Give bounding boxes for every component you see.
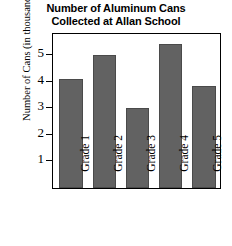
y-tick-mark xyxy=(46,107,53,108)
y-tick-mark xyxy=(46,54,53,55)
y-tick-label: 5 xyxy=(28,45,44,61)
x-axis-label-grade-1: Grade 1 xyxy=(78,135,92,191)
y-tick-mark xyxy=(46,134,53,135)
x-axis-label-grade-3: Grade 3 xyxy=(144,135,158,191)
x-axis-label-grade-5: Grade 5 xyxy=(210,135,224,191)
y-tick-label: 2 xyxy=(28,125,44,141)
y-tick-label: 3 xyxy=(28,98,44,114)
y-tick-mark xyxy=(46,160,53,161)
y-tick-mark xyxy=(46,81,53,82)
y-tick-label: 4 xyxy=(28,72,44,88)
bar-chart-figure: Number of Aluminum Cans Collected at All… xyxy=(0,0,232,246)
x-axis-label-grade-2: Grade 2 xyxy=(111,135,125,191)
y-tick-label: 1 xyxy=(28,151,44,167)
x-axis-label-grade-4: Grade 4 xyxy=(177,135,191,191)
